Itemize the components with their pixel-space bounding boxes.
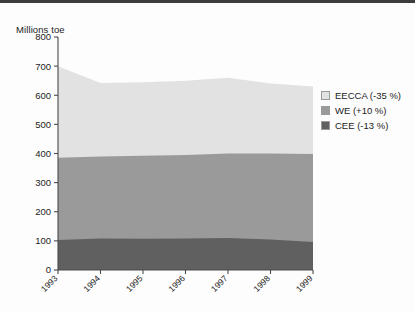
y-tick-group [54,37,58,270]
y-tick-label: 200 [35,206,51,217]
legend-item-label: CEE (-13 %) [335,121,388,131]
area-series-group [58,66,313,270]
area-series-cee [58,238,313,270]
legend-item-label: EECCA (-35 %) [335,91,401,101]
y-tick-label: 800 [35,31,51,42]
legend-item[interactable]: WE (+10 %) [321,103,401,118]
x-tick-label-1997: 1997 [209,273,230,294]
legend-item-label: WE (+10 %) [335,106,386,116]
x-tick-group [58,270,313,274]
legend-swatch-icon [321,121,330,130]
y-tick-label: 600 [35,90,51,101]
y-tick-label: 700 [35,61,51,72]
chart-frame: Millions toe 0100200300400500600700800 1… [0,0,415,313]
chart-legend: EECCA (-35 %)WE (+10 %)CEE (-13 %) [321,88,401,133]
legend-swatch-icon [321,91,330,100]
x-tick-label-1993: 1993 [39,273,60,294]
x-tick-label-1998: 1998 [251,273,272,294]
x-tick-label-1994: 1994 [81,273,102,294]
x-tick-labels: 1993199419951996199719981999 [39,273,315,294]
y-tick-label: 0 [46,264,51,275]
y-tick-label: 300 [35,177,51,188]
legend-item[interactable]: CEE (-13 %) [321,118,401,133]
legend-swatch-icon [321,106,330,115]
x-tick-label-1996: 1996 [166,273,187,294]
legend-item[interactable]: EECCA (-35 %) [321,88,401,103]
y-tick-labels: 0100200300400500600700800 [35,31,51,275]
y-tick-label: 400 [35,148,51,159]
x-tick-label-1999: 1999 [294,273,315,294]
plot-area-container: 0100200300400500600700800 19931994199519… [0,0,415,313]
x-tick-label-1995: 1995 [124,273,145,294]
stacked-area-chart: 0100200300400500600700800 19931994199519… [0,0,415,313]
y-tick-label: 100 [35,235,51,246]
y-tick-label: 500 [35,119,51,130]
